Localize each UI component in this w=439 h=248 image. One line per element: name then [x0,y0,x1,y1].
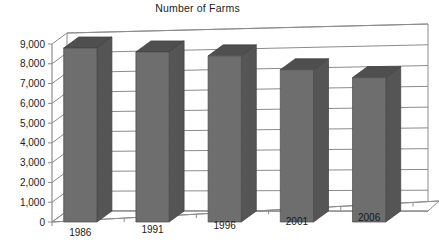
x-axis-tick-label: 1996 [214,220,237,231]
bar-side-face [169,41,184,222]
y-axis-tick-label: 9,000 [20,39,45,50]
y-axis-tick-label: 6,000 [20,98,45,109]
bar-front-face [136,52,169,222]
y-axis-tick-label: 7,000 [20,78,45,89]
bar-side-face [386,67,401,222]
bar-side-face [314,59,329,222]
y-axis-tick-label: 1,000 [20,197,45,208]
y-axis-tick-label: 4,000 [20,137,45,148]
y-axis-tick-label: 0 [39,217,45,228]
x-axis-tick-label: 1991 [141,224,164,235]
x-axis-tick-label: 1986 [69,227,92,238]
x-axis-tick-label: 2001 [286,216,309,227]
bar-front-face [280,70,313,222]
bar[interactable] [208,45,256,222]
y-axis-tick-label: 5,000 [20,118,45,129]
bar-side-face [97,37,112,222]
bar-chart: Number of Farms 01,0002,0003,0004,0005,0… [0,0,439,248]
bar[interactable] [136,41,184,222]
y-axis-tick-label: 3,000 [20,157,45,168]
y-axis-tick-label: 2,000 [20,177,45,188]
bar[interactable] [280,59,328,222]
bar-front-face [352,78,385,222]
bar[interactable] [352,67,400,222]
bar-side-face [241,45,256,222]
side-wall-depth-line [52,33,67,44]
bar[interactable] [64,37,112,222]
plot-area: 01,0002,0003,0004,0005,0006,0007,0008,00… [0,0,439,248]
bar-front-face [208,56,241,222]
y-axis-tick-label: 8,000 [20,58,45,69]
bar-front-face [64,48,97,222]
x-axis-tick-label: 2006 [358,212,381,223]
